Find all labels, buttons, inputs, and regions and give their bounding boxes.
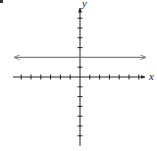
x-axis-label: x [149, 71, 154, 82]
coordinate-plane [0, 0, 157, 151]
y-axis-label: y [82, 0, 87, 9]
axes [13, 8, 145, 146]
